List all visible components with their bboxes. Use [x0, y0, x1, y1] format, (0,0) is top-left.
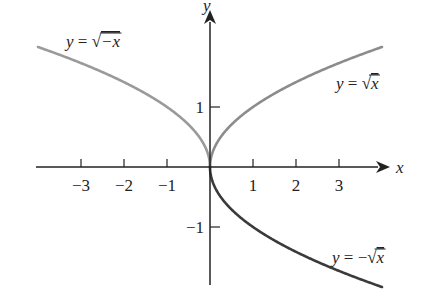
label-sqrt-x: y = √x	[334, 74, 379, 93]
label-neg-sqrt-x: y = −√x	[330, 248, 385, 267]
x-tick-label: 3	[335, 176, 344, 195]
chart-canvas: x y −3−2−11231−1 y = √−xy = √xy = −√x	[0, 0, 426, 305]
x-tick-label: −2	[115, 176, 133, 195]
x-tick-label: 1	[249, 176, 258, 195]
curve-sqrt-neg-x	[38, 47, 210, 167]
curve-sqrt-x	[210, 47, 382, 167]
x-axis-label: x	[395, 158, 404, 177]
x-axis-arrow-icon	[376, 161, 390, 173]
y-axis-label: y	[201, 0, 211, 15]
label-sqrt-neg-x: y = √−x	[64, 32, 120, 51]
x-tick-label: −1	[158, 176, 176, 195]
x-tick-label: −3	[72, 176, 90, 195]
y-tick-label: 1	[196, 98, 205, 117]
x-axis: x	[36, 158, 404, 177]
y-tick-label: −1	[186, 218, 204, 237]
x-tick-label: 2	[292, 176, 301, 195]
curve-labels: y = √−xy = √xy = −√x	[64, 32, 386, 267]
